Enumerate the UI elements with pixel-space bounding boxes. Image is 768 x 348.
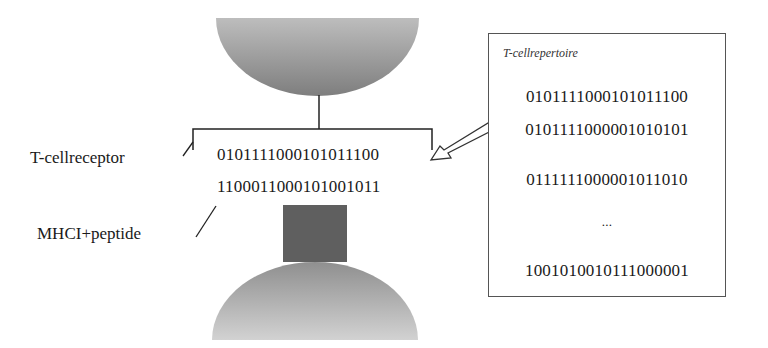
repertoire-sequence: 1001010010111000001 xyxy=(489,261,725,281)
mhc-peptide-label: MHCI+peptide xyxy=(37,224,141,244)
tcell-receptor-sequence: 0101111000101011100 xyxy=(217,145,379,165)
repertoire-sequence: 0101111000101011100 xyxy=(489,87,725,107)
mhc-block xyxy=(283,205,347,262)
tcell-receptor-label: T-cellreceptor xyxy=(30,148,125,168)
repertoire-title: T-cellrepertoire xyxy=(503,46,578,61)
repertoire-sequence: 0101111000001010101 xyxy=(489,120,725,140)
antigen-presenting-cell-shape xyxy=(212,262,418,340)
repertoire-sequence: 0111111000001011010 xyxy=(489,170,725,190)
t-cell-shape xyxy=(216,18,419,96)
tcell-repertoire-box: T-cellrepertoire 0101111000101011100 010… xyxy=(488,33,726,297)
mhc-peptide-sequence: 1100011000101001011 xyxy=(217,177,380,197)
repertoire-ellipsis: ... xyxy=(489,214,725,230)
